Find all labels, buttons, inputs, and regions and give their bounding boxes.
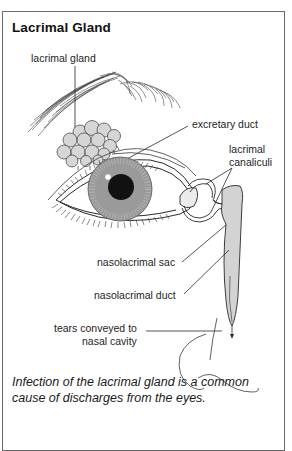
nasolacrimal-sac-drawing [222,186,243,327]
label-lacrimal-canaliculi-line1: lacrimal [229,143,265,156]
nasolacrimal-sac-leader-line [182,225,226,262]
label-lacrimal-gland: lacrimal gland [31,52,96,65]
nasolacrimal-duct-leader-line [184,250,229,294]
label-tears-conveyed-line2: nasal cavity [82,335,137,348]
canaliculi-drawing [180,179,224,222]
label-lacrimal-canaliculi-line2: canaliculi [229,156,272,169]
pupil-highlight [105,174,111,180]
label-tears-conveyed-line1: tears conveyed to [54,322,137,335]
label-excretary-duct: excretary duct [192,118,258,131]
iris-drawing [88,157,152,221]
label-nasolacrimal-sac: nasolacrimal sac [97,256,175,269]
label-nasolacrimal-duct: nasolacrimal duct [94,289,176,302]
pupil [108,174,134,200]
figure-caption: Infection of the lacrimal gland is a com… [12,374,277,406]
excretary-duct-leader-line [125,126,188,160]
